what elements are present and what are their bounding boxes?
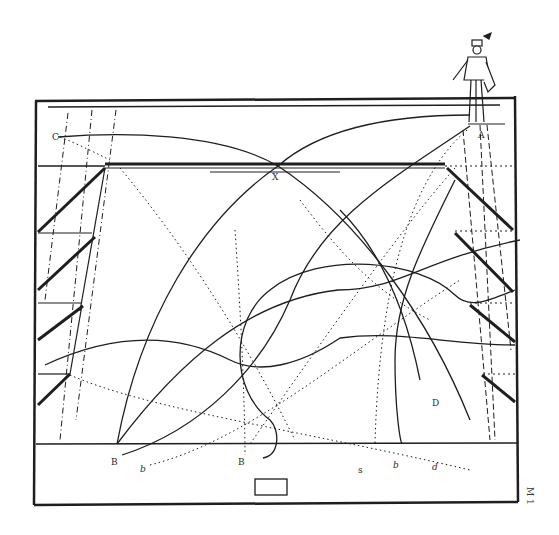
label-b-left: B <box>111 457 118 467</box>
observer-figure-icon <box>453 33 495 122</box>
label-a: A <box>477 130 485 140</box>
label-s: s <box>358 465 363 475</box>
side-mark: M 1 <box>525 487 535 505</box>
label-b-italic-left: b <box>140 464 146 474</box>
label-b-center: B <box>238 457 245 467</box>
label-b-italic-right: b <box>393 460 399 470</box>
scale-box <box>255 479 287 495</box>
arc-C-X <box>58 135 278 166</box>
label-d-upper: D <box>432 398 439 408</box>
right-steps <box>447 168 515 402</box>
left-steps <box>38 168 105 405</box>
label-d-lower: d <box>432 462 438 472</box>
label-x: X <box>272 172 279 182</box>
diagram-canvas: C X A D B b B s b d M 1 <box>0 0 559 535</box>
label-c: C <box>52 132 59 142</box>
